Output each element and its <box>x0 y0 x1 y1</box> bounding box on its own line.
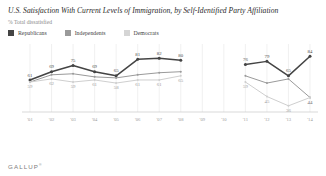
data-point <box>180 70 182 72</box>
x-axis-tick-label: '04 <box>92 117 98 122</box>
data-point <box>244 62 247 65</box>
data-point <box>115 76 117 78</box>
data-label: 62 <box>49 81 54 86</box>
data-point <box>29 78 32 81</box>
data-label: 84 <box>308 48 313 53</box>
legend-swatch-republicans <box>8 30 14 36</box>
data-point <box>287 104 289 106</box>
data-label: 65 <box>114 68 119 73</box>
chart-legend: Republicans Independents Democrats <box>8 30 318 36</box>
line-chart-svg: 6169756965818280767965844459625961586161… <box>12 40 322 128</box>
data-point <box>244 74 246 76</box>
legend-item-democrats[interactable]: Democrats <box>124 30 159 36</box>
data-label: 75 <box>71 58 76 63</box>
data-point <box>266 95 268 97</box>
gallup-chart-figure: U.S. Satisfaction With Current Levels of… <box>0 0 326 176</box>
x-axis-tick-label: '14 <box>307 117 313 122</box>
data-label: 45 <box>265 98 270 103</box>
data-label: 59 <box>243 84 248 89</box>
series-line-republicans <box>245 56 310 76</box>
data-label: 61 <box>157 82 162 87</box>
data-point <box>158 56 161 59</box>
data-point <box>179 58 182 61</box>
data-point <box>72 72 74 74</box>
x-axis-tick-label: '07 <box>157 117 163 122</box>
x-axis-tick-label: '09 <box>200 117 206 122</box>
data-point <box>158 78 160 80</box>
data-label: 59 <box>71 84 76 89</box>
data-label: 65 <box>286 68 291 73</box>
legend-swatch-democrats <box>124 30 130 36</box>
data-label: 44 <box>308 99 313 104</box>
data-point <box>265 59 268 62</box>
data-point <box>115 82 117 84</box>
data-label: 69 <box>49 64 54 69</box>
series-line-democrats <box>245 82 310 106</box>
page-title: U.S. Satisfaction With Current Levels of… <box>8 6 308 17</box>
data-point <box>309 54 312 57</box>
data-label: 76 <box>243 57 248 62</box>
legend-label-republicans: Republicans <box>18 30 47 36</box>
x-axis-tick-label: '02 <box>49 117 55 122</box>
legend-item-independents[interactable]: Independents <box>65 30 106 36</box>
x-axis-tick-label: '06 <box>135 117 141 122</box>
x-axis-tick-label: '01 <box>27 117 33 122</box>
data-point <box>115 74 118 77</box>
data-label: 61 <box>135 82 140 87</box>
data-label: 80 <box>178 52 183 57</box>
data-point <box>309 96 311 98</box>
data-label: 58 <box>114 85 119 90</box>
chart-plot-area: 6169756965818280767965844459625961586161… <box>12 40 322 128</box>
data-point <box>158 71 160 73</box>
data-label: 69 <box>92 64 97 69</box>
legend-swatch-independents <box>65 30 71 36</box>
data-label: 61 <box>28 72 33 77</box>
data-point <box>287 74 290 77</box>
legend-label-independents: Independents <box>75 30 106 36</box>
data-point <box>180 74 182 76</box>
x-axis-tick-label: '08 <box>178 117 184 122</box>
x-axis-tick-label: '10 <box>221 117 227 122</box>
series-line-independents <box>245 75 310 97</box>
x-axis-tick-label: '03 <box>70 117 76 122</box>
data-label: 59 <box>28 84 33 89</box>
data-point <box>244 81 246 83</box>
data-point <box>93 70 96 73</box>
legend-item-republicans[interactable]: Republicans <box>8 30 47 36</box>
gallup-brand-text: GALLUP <box>8 163 39 170</box>
x-axis-tick-label: '12 <box>264 117 270 122</box>
data-point <box>72 64 75 67</box>
data-label: 61 <box>92 82 97 87</box>
data-point <box>72 81 74 83</box>
data-label: 36 <box>286 108 291 113</box>
data-point <box>29 81 31 83</box>
data-point <box>51 73 53 75</box>
chart-subtitle: % Total dissatisfied <box>8 19 318 25</box>
data-point <box>50 70 53 73</box>
gallup-logo: GALLUP® <box>8 163 43 170</box>
data-point <box>94 75 96 77</box>
x-axis-tick-label: '13 <box>286 117 292 122</box>
data-label: 81 <box>135 51 140 56</box>
data-point <box>287 77 289 79</box>
data-point <box>94 78 96 80</box>
data-point <box>266 82 268 84</box>
data-label: 65 <box>178 78 183 83</box>
legend-label-democrats: Democrats <box>134 30 159 36</box>
trademark-icon: ® <box>39 163 43 167</box>
data-label: 79 <box>265 53 270 58</box>
data-point <box>136 57 139 60</box>
data-point <box>51 77 53 79</box>
x-axis-tick-label: '05 <box>113 117 119 122</box>
x-axis-tick-label: '11 <box>243 117 249 122</box>
data-point <box>137 73 139 75</box>
data-label: 82 <box>157 50 162 55</box>
data-point <box>137 78 139 80</box>
